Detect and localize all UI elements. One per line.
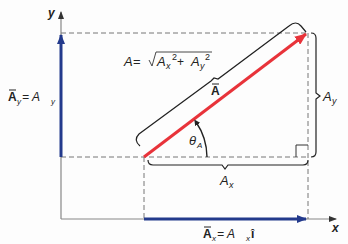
svg-text:A: A — [196, 141, 202, 150]
svg-text:2: 2 — [205, 52, 210, 62]
diagram-canvas: y x A = A x 2 + A y 2 A θ A A x A y A x … — [0, 0, 348, 244]
svg-text:A: A — [322, 89, 332, 104]
magnitude-formula: A = A x 2 + A y 2 — [123, 52, 212, 71]
svg-text:y: y — [331, 96, 337, 106]
svg-text:A: A — [123, 54, 133, 69]
vector-components-diagram: y x A = A x 2 + A y 2 A θ A A x A y A x … — [0, 0, 348, 244]
ay-bracket — [311, 33, 320, 157]
svg-text:î: î — [250, 227, 255, 241]
svg-text:A: A — [8, 90, 17, 104]
magnitude-bracket — [136, 23, 306, 146]
vector-a-label: A — [211, 84, 220, 98]
svg-text:A: A — [156, 54, 166, 69]
x-axis-label: x — [331, 221, 340, 235]
theta-label: θ A — [189, 133, 202, 150]
ay-vector-equation: A y = A y ĵ — [8, 90, 56, 106]
svg-text:y: y — [199, 61, 205, 71]
svg-text:A: A — [219, 173, 229, 188]
ax-vector-equation: A x = A x î — [203, 227, 255, 243]
ay-bracket-label: A y — [322, 89, 337, 106]
ax-bracket-label: A x — [219, 173, 234, 190]
svg-text:x: x — [165, 61, 171, 71]
svg-text:= A: = A — [22, 90, 40, 104]
svg-text:A: A — [190, 54, 200, 69]
svg-text:θ: θ — [189, 133, 196, 148]
svg-text:= A: = A — [217, 227, 235, 241]
ax-bracket — [148, 160, 308, 169]
theta-arc — [196, 122, 207, 157]
right-angle-marker — [296, 145, 308, 157]
svg-text:A: A — [211, 84, 220, 98]
svg-text:x: x — [228, 180, 234, 190]
y-axis-label: y — [47, 6, 56, 20]
svg-text:y: y — [50, 97, 56, 106]
svg-text:=: = — [133, 54, 141, 69]
svg-text:+: + — [177, 55, 184, 69]
svg-text:A: A — [203, 227, 212, 241]
